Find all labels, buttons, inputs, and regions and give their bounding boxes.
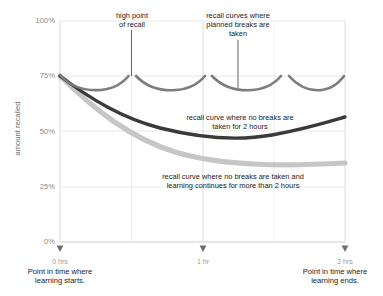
y-tick-label-0: 0% xyxy=(14,237,55,246)
chart-canvas: amount recalled 100% 75% 50% 25% 0% 0 hr… xyxy=(0,0,383,296)
x-tick-label-0hrs: 0 hrs xyxy=(30,258,90,265)
y-tick-label-50: 50% xyxy=(14,127,55,136)
tick-marker-1hr xyxy=(200,246,207,253)
annotation-planned-breaks: recall curves where planned breaks are t… xyxy=(190,12,286,38)
x-axis-tick-markers xyxy=(57,246,349,253)
label-curve-no-breaks-two-hours: recall curve where no breaks are taken f… xyxy=(145,113,335,131)
scallop-arc-4 xyxy=(289,76,344,90)
tick-marker-0hrs xyxy=(57,246,64,253)
footnote-learning-starts: Point in time where learning starts. xyxy=(4,267,116,286)
x-tick-label-2hrs: 2 hrs xyxy=(315,258,375,265)
curve-planned-breaks xyxy=(60,75,344,90)
scallop-arc-3 xyxy=(212,76,281,90)
scallop-arc-2 xyxy=(136,76,205,90)
annotation-high-point-of-recall: high point of recall xyxy=(96,12,168,30)
chart-plot-svg xyxy=(0,0,383,296)
tick-marker-2hrs xyxy=(342,246,349,253)
y-tick-label-25: 25% xyxy=(14,182,55,191)
x-tick-label-1hr: 1 hr xyxy=(173,258,233,265)
y-tick-label-75: 75% xyxy=(14,71,55,80)
label-curve-no-breaks-extended: recall curve where no breaks are taken a… xyxy=(112,172,354,190)
y-tick-label-100: 100% xyxy=(14,16,55,25)
footnote-learning-ends: Point in time where learning ends. xyxy=(288,267,382,286)
